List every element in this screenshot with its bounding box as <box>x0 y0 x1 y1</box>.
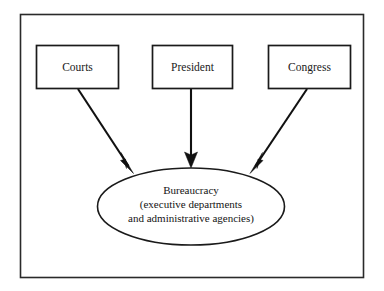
courts-label: Courts <box>62 61 93 73</box>
congress-label: Congress <box>288 61 331 74</box>
node-bureaucracy[interactable]: Bureaucracy (executive departments and a… <box>98 168 285 245</box>
diagram-canvas: Courts President Congress Bureaucracy (e… <box>0 0 384 291</box>
bureaucracy-label-line-2: (executive departments <box>140 198 242 211</box>
president-label: President <box>171 61 215 73</box>
node-congress[interactable]: Congress <box>269 46 351 89</box>
bureaucracy-label-line-3: and administrative agencies) <box>128 212 254 225</box>
bureaucracy-label-line-1: Bureaucracy <box>163 184 219 196</box>
node-courts[interactable]: Courts <box>37 46 119 89</box>
node-president[interactable]: President <box>153 46 233 89</box>
bureaucracy-flow-diagram: Courts President Congress Bureaucracy (e… <box>0 0 384 291</box>
